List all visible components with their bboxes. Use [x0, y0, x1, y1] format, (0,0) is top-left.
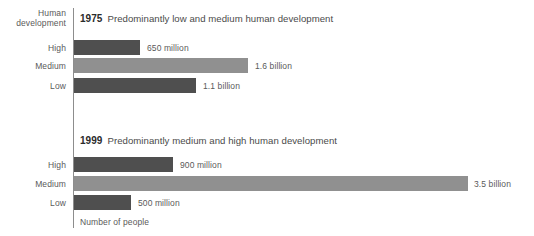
category-label-1999-medium: Medium [0, 179, 66, 189]
category-label-1999-high: High [0, 160, 66, 170]
bar-1999-medium [74, 176, 468, 191]
bar-value-1999-medium: 3.5 billion [474, 179, 511, 189]
bar-value-1999-low: 500 million [138, 198, 180, 208]
x-axis-caption: Number of people [80, 217, 149, 227]
y-axis-title-line1: Human [38, 8, 66, 18]
panel-year-1999: 1999 [80, 135, 102, 146]
panel-year-1975: 1975 [80, 13, 102, 24]
category-label-1975-high: High [0, 43, 66, 53]
category-label-1999-low: Low [0, 198, 66, 208]
panel-subtitle-1975: Predominantly low and medium human devel… [107, 13, 333, 24]
category-label-1975-medium: Medium [0, 61, 66, 71]
human-development-bar-chart: Human development 1975Predominantly low … [0, 0, 534, 236]
bar-value-1999-high: 900 million [180, 160, 222, 170]
y-axis-title-line2: development [16, 18, 66, 28]
category-label-1975-low: Low [0, 81, 66, 91]
bar-value-1975-high: 650 million [147, 43, 189, 53]
y-axis-title: Human development [0, 8, 66, 28]
panel-subtitle-1999: Predominantly medium and high human deve… [107, 135, 337, 146]
bar-1975-high [74, 40, 140, 55]
bar-1975-medium [74, 58, 248, 73]
bar-1975-low [74, 78, 196, 93]
bar-1999-low [74, 195, 131, 210]
bar-value-1975-low: 1.1 billion [203, 81, 240, 91]
bar-value-1975-medium: 1.6 billion [255, 61, 292, 71]
panel-title-1999: 1999Predominantly medium and high human … [80, 135, 337, 146]
panel-title-1975: 1975Predominantly low and medium human d… [80, 13, 333, 24]
bar-1999-high [74, 157, 173, 172]
